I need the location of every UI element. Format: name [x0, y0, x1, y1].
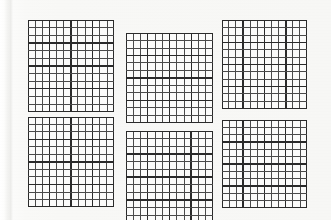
grid-top-left — [28, 20, 114, 112]
grid-bottom-left-rules — [28, 117, 114, 207]
grid-top-middle — [126, 33, 213, 123]
grid-top-left-rules — [28, 20, 114, 112]
grid-bottom-left — [28, 117, 114, 207]
scanned-page — [0, 0, 331, 220]
grid-top-right-rules — [222, 20, 307, 109]
vertical-scan-streak — [8, 0, 13, 220]
grid-bottom-middle-rules — [126, 131, 213, 220]
grid-top-right — [222, 20, 307, 109]
grid-top-middle-rules — [126, 33, 213, 123]
grid-bottom-middle — [126, 131, 213, 220]
grid-bottom-right-rules — [222, 120, 307, 208]
grid-bottom-right — [222, 120, 307, 208]
